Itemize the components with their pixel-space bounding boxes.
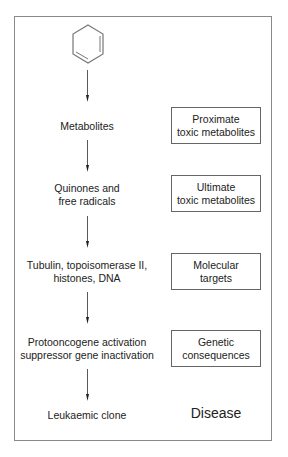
step-label: Protooncogene activation: [16, 336, 158, 349]
box-label: Genetic: [182, 336, 250, 349]
step-label: suppressor gene inactivation: [16, 349, 158, 362]
step-label: free radicals: [16, 195, 158, 208]
step-label: Quinones and: [16, 182, 158, 195]
box-genetic-consequences: Genetic consequences: [171, 330, 261, 367]
step-genetic: Protooncogene activation suppressor gene…: [16, 336, 158, 361]
disease-label: Disease: [171, 405, 261, 421]
box-label: Molecular: [193, 259, 239, 272]
box-label: targets: [193, 272, 239, 285]
step-label: Leukaemic clone: [16, 409, 158, 422]
arrow-down-icon: [86, 70, 89, 102]
box-proximate-toxic-metabolites: Proximate toxic metabolites: [171, 107, 261, 144]
arrow-down-icon: [86, 292, 89, 324]
arrow-down-icon: [86, 140, 89, 172]
box-label: toxic metabolites: [177, 126, 255, 139]
benzene-ring-icon: [71, 24, 105, 64]
box-label: Proximate: [177, 113, 255, 126]
step-label: Metabolites: [16, 120, 158, 133]
step-leukaemic-clone: Leukaemic clone: [16, 409, 158, 422]
box-label: Ultimate: [177, 181, 255, 194]
box-molecular-targets: Molecular targets: [171, 253, 261, 290]
box-label: consequences: [182, 349, 250, 362]
step-quinones: Quinones and free radicals: [16, 182, 158, 207]
diagram-frame: [14, 16, 272, 441]
step-molecular-targets: Tubulin, topoisomerase II, histones, DNA: [16, 259, 158, 284]
box-ultimate-toxic-metabolites: Ultimate toxic metabolites: [171, 175, 261, 212]
step-metabolites: Metabolites: [16, 120, 158, 133]
arrow-down-icon: [86, 369, 89, 401]
step-label: histones, DNA: [16, 272, 158, 285]
box-label: toxic metabolites: [177, 194, 255, 207]
step-label: Tubulin, topoisomerase II,: [16, 259, 158, 272]
arrow-down-icon: [86, 216, 89, 248]
